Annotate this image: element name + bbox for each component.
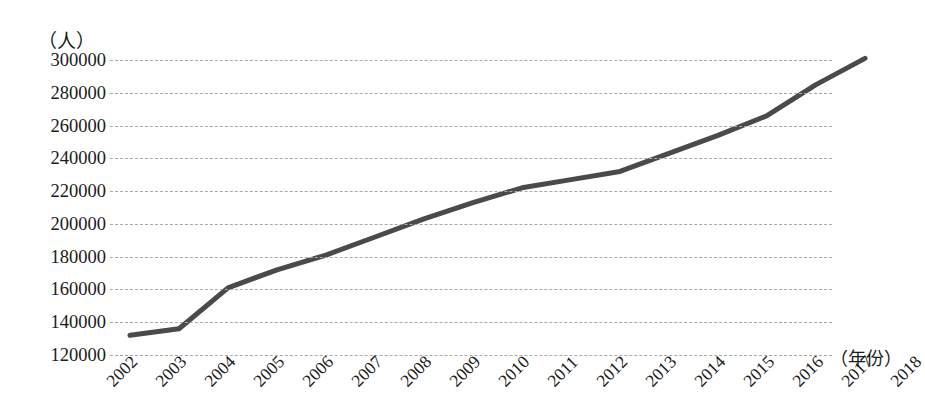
plot-area bbox=[110, 60, 832, 355]
x-axis-tick-label: 2013 bbox=[643, 353, 680, 390]
x-axis-tick-label: 2014 bbox=[692, 353, 729, 390]
gridline bbox=[110, 158, 832, 159]
x-axis-tick-label: 2002 bbox=[104, 353, 141, 390]
y-axis-tick-label: 240000 bbox=[28, 149, 106, 167]
x-axis-tick-label: 2003 bbox=[153, 353, 190, 390]
x-axis-tick-label: 2007 bbox=[349, 353, 386, 390]
y-axis-tick-label: 200000 bbox=[28, 215, 106, 233]
y-axis-tick-label: 280000 bbox=[28, 84, 106, 102]
x-axis-unit-label: （年份） bbox=[830, 344, 902, 370]
x-axis-tick-label: 2016 bbox=[790, 353, 827, 390]
gridline bbox=[110, 60, 832, 61]
y-axis-tick-label: 260000 bbox=[28, 117, 106, 135]
x-axis-tick-label: 2009 bbox=[447, 353, 484, 390]
y-axis-tick-labels: 3000002800002600002400002200002000001800… bbox=[28, 60, 106, 355]
gridline bbox=[110, 289, 832, 290]
data-series-line bbox=[110, 60, 832, 355]
x-axis-tick-label: 2005 bbox=[251, 353, 288, 390]
y-axis-tick-label: 300000 bbox=[28, 51, 106, 69]
gridline bbox=[110, 224, 832, 225]
y-axis-unit-label: （人） bbox=[38, 26, 95, 53]
x-axis-tick-label: 2010 bbox=[496, 353, 533, 390]
y-axis-tick-label: 120000 bbox=[28, 346, 106, 364]
y-axis-tick-label: 180000 bbox=[28, 248, 106, 266]
gridline bbox=[110, 191, 832, 192]
x-axis-tick-label: 2015 bbox=[741, 353, 778, 390]
x-axis-tick-label: 2012 bbox=[594, 353, 631, 390]
gridline bbox=[110, 257, 832, 258]
x-axis-tick-label: 2006 bbox=[300, 353, 337, 390]
y-axis-tick-label: 140000 bbox=[28, 313, 106, 331]
x-axis-tick-labels: 2002200320042005200620072008200920102011… bbox=[110, 341, 870, 413]
gridline bbox=[110, 93, 832, 94]
x-axis-tick-label: 2004 bbox=[202, 353, 239, 390]
x-axis-tick-label: 2011 bbox=[545, 353, 581, 389]
gridline bbox=[110, 322, 832, 323]
x-axis-tick-label: 2008 bbox=[398, 353, 435, 390]
y-axis-tick-label: 220000 bbox=[28, 182, 106, 200]
y-axis-tick-label: 160000 bbox=[28, 280, 106, 298]
gridline bbox=[110, 126, 832, 127]
